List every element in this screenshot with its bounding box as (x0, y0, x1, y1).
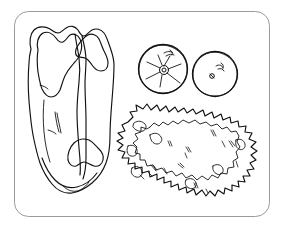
tomato-icon (139, 45, 188, 94)
line-art-svg (0, 0, 283, 229)
illustration-canvas: Plate with steak, tomato slices and lett… (0, 0, 283, 229)
plate-icon (15, 12, 270, 217)
tomato-icon (193, 52, 238, 97)
